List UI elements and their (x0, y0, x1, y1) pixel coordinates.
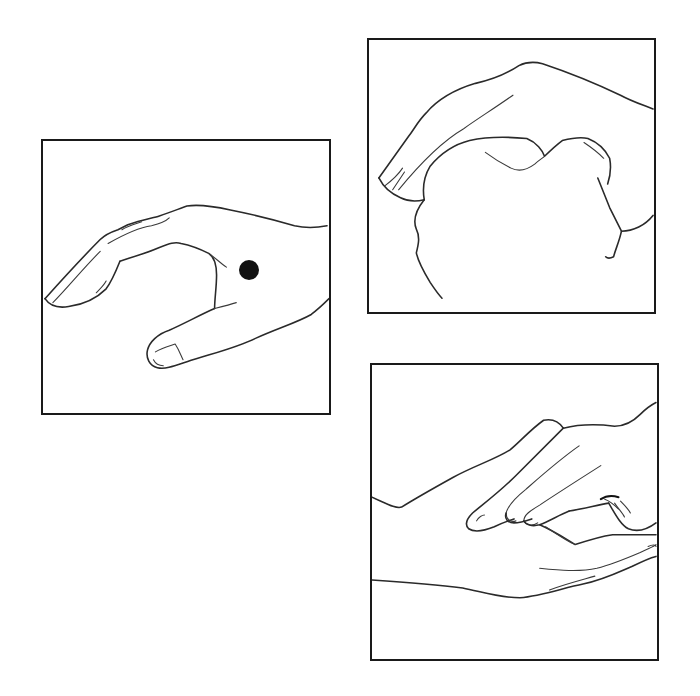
hand-point-drawing (43, 141, 329, 413)
illustration-panel-hand-cupping (367, 38, 656, 314)
hand-cupping-drawing (369, 40, 654, 312)
fingers-on-wrist-drawing (372, 365, 657, 659)
acupressure-point-marker (239, 260, 259, 280)
illustration-panel-hand-point (41, 139, 331, 415)
illustration-panel-fingers-on-wrist (370, 363, 659, 661)
